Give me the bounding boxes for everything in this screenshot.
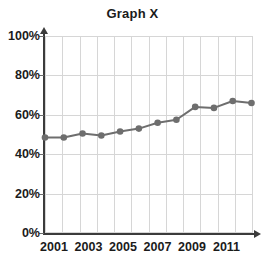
data-point-marker <box>154 119 161 126</box>
data-point-marker <box>248 100 255 107</box>
data-point-marker <box>60 134 67 141</box>
data-point-marker <box>42 134 49 141</box>
data-point-marker <box>117 128 124 135</box>
data-point-marker <box>192 104 199 111</box>
data-point-marker <box>98 132 105 139</box>
series-plot <box>0 0 265 268</box>
data-point-marker <box>229 98 236 105</box>
data-point-marker <box>136 125 143 132</box>
data-point-marker <box>173 116 180 123</box>
series-line <box>45 101 252 137</box>
data-point-marker <box>211 105 218 112</box>
data-point-marker <box>79 130 86 137</box>
chart-figure: Graph X 100% 80% 60% 40% 20% <box>0 0 265 268</box>
